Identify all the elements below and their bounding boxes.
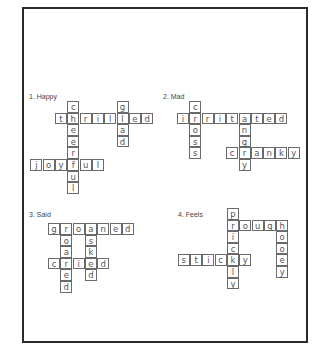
crossword-cell: i xyxy=(227,231,239,243)
crossword-cell: k xyxy=(275,147,287,159)
crossword-cell: e xyxy=(60,269,72,281)
crossword-cell: s xyxy=(189,147,201,159)
crossword-cell: e xyxy=(129,113,141,125)
crossword-cell: r xyxy=(67,147,79,159)
crossword-cell: y xyxy=(276,266,288,278)
puzzle-title: 1. Happy xyxy=(29,93,57,100)
crossword-cell: d xyxy=(85,269,97,281)
crossword-cell: r xyxy=(189,113,201,125)
crossword-cell: s xyxy=(189,136,201,148)
crossword-cell: o xyxy=(189,124,201,136)
crossword-cell: y xyxy=(55,159,67,171)
crossword-cell: g xyxy=(264,220,276,232)
crossword-cell: o xyxy=(276,231,288,243)
crossword-cell: r xyxy=(239,147,251,159)
worksheet-frame xyxy=(22,7,308,343)
crossword-cell: i xyxy=(177,113,189,125)
crossword-cell: u xyxy=(67,171,79,183)
crossword-cell: s xyxy=(178,254,190,266)
crossword-cell: d xyxy=(141,113,153,125)
crossword-cell: r xyxy=(80,113,92,125)
crossword-cell: e xyxy=(110,223,122,235)
crossword-cell: a xyxy=(251,147,263,159)
crossword-cell: j xyxy=(30,159,42,171)
crossword-cell: g xyxy=(48,223,60,235)
crossword-cell: c xyxy=(215,254,227,266)
puzzle-title: 3. Said xyxy=(29,211,51,218)
crossword-cell: l xyxy=(227,266,239,278)
crossword-cell: r xyxy=(227,220,239,232)
crossword-cell: i xyxy=(92,113,104,125)
crossword-cell: g xyxy=(117,101,129,113)
crossword-cell: e xyxy=(67,136,79,148)
crossword-cell: y xyxy=(239,254,251,266)
crossword-cell: n xyxy=(263,147,275,159)
crossword-cell: o xyxy=(276,243,288,255)
crossword-cell: d xyxy=(60,281,72,293)
crossword-cell: a xyxy=(85,223,97,235)
crossword-cell: t xyxy=(251,113,263,125)
crossword-cell: c xyxy=(189,101,201,113)
crossword-cell: u xyxy=(252,220,264,232)
crossword-cell: k xyxy=(227,254,239,266)
crossword-cell: r xyxy=(60,258,72,270)
crossword-cell: o xyxy=(60,235,72,247)
crossword-cell: k xyxy=(85,246,97,258)
crossword-cell: o xyxy=(43,159,55,171)
crossword-cell: e xyxy=(276,254,288,266)
crossword-cell: f xyxy=(67,159,79,171)
crossword-cell: n xyxy=(97,223,109,235)
crossword-cell: a xyxy=(117,124,129,136)
crossword-cell: r xyxy=(202,113,214,125)
crossword-cell: l xyxy=(67,182,79,194)
crossword-cell: o xyxy=(73,223,85,235)
crossword-cell: l xyxy=(104,113,116,125)
crossword-cell: s xyxy=(85,235,97,247)
crossword-cell: l xyxy=(117,113,129,125)
crossword-cell: t xyxy=(226,113,238,125)
crossword-cell: c xyxy=(48,258,60,270)
crossword-cell: a xyxy=(239,113,251,125)
crossword-cell: c xyxy=(67,101,79,113)
crossword-cell: h xyxy=(67,113,79,125)
crossword-cell: i xyxy=(214,113,226,125)
puzzle-title: 2. Mad xyxy=(163,93,184,100)
crossword-cell: p xyxy=(227,208,239,220)
crossword-cell: o xyxy=(239,220,251,232)
crossword-cell: i xyxy=(202,254,214,266)
crossword-cell: r xyxy=(60,223,72,235)
crossword-cell: y xyxy=(288,147,300,159)
crossword-cell: d xyxy=(117,136,129,148)
crossword-cell: h xyxy=(276,220,288,232)
crossword-cell: e xyxy=(263,113,275,125)
crossword-cell: n xyxy=(239,124,251,136)
crossword-cell: e xyxy=(85,258,97,270)
crossword-cell: y xyxy=(239,159,251,171)
crossword-cell: t xyxy=(55,113,67,125)
crossword-cell: e xyxy=(67,124,79,136)
crossword-cell: t xyxy=(190,254,202,266)
crossword-cell: c xyxy=(227,243,239,255)
crossword-cell: a xyxy=(60,246,72,258)
crossword-cell: i xyxy=(73,258,85,270)
crossword-cell: c xyxy=(226,147,238,159)
crossword-cell: l xyxy=(92,159,104,171)
crossword-cell: y xyxy=(227,278,239,290)
crossword-cell: g xyxy=(239,136,251,148)
crossword-cell: d xyxy=(275,113,287,125)
puzzle-title: 4. Feels xyxy=(178,211,203,218)
crossword-cell: u xyxy=(80,159,92,171)
crossword-cell: d xyxy=(97,258,109,270)
crossword-cell: d xyxy=(122,223,134,235)
